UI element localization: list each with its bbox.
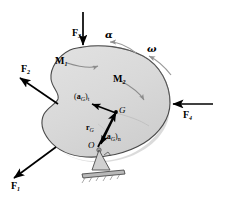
vector-label-aGn: (aG)n: [104, 133, 121, 141]
point-label-O: O: [88, 141, 95, 150]
force-label-F2: F2: [21, 64, 30, 74]
center-of-mass-marker: [114, 110, 118, 114]
force-label-F4: F4: [183, 110, 192, 120]
point-label-G: G: [119, 106, 126, 115]
figure-canvas: F3 F4 F2 F1 M1 M2 α ω G O (aG)t (aG)n rG: [0, 0, 226, 200]
vector-label-aGt: (aG)t: [74, 93, 89, 101]
angular-acceleration-label: α: [105, 30, 113, 40]
diagram-svg: [0, 0, 226, 200]
moment-label-M2: M2: [113, 74, 125, 84]
force-arrow-F1: [14, 147, 56, 178]
force-label-F1: F1: [11, 181, 20, 191]
angular-velocity-label: ω: [147, 44, 157, 54]
moment-label-M1: M1: [55, 56, 67, 66]
vector-label-rG: rG: [86, 124, 94, 132]
force-label-F3: F3: [72, 28, 81, 38]
